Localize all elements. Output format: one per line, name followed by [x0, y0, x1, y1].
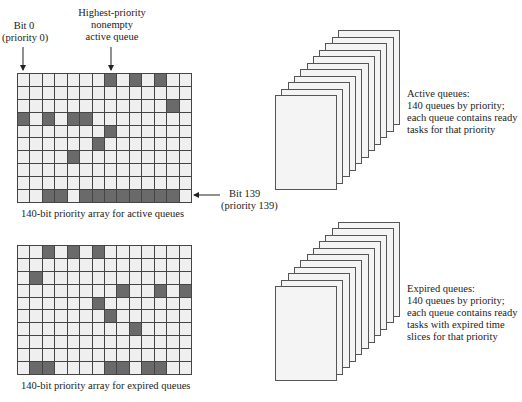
arrows-overlay	[0, 0, 522, 402]
